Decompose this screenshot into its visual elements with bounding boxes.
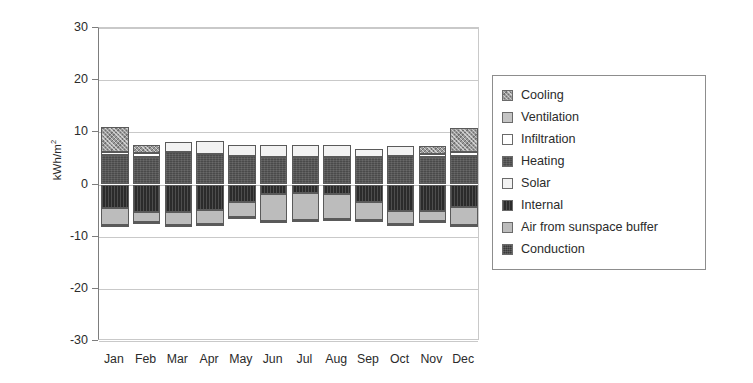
- bar-segment: [196, 154, 223, 184]
- x-tick-label: May: [229, 352, 252, 366]
- bar-segment: [260, 185, 287, 195]
- bar-segment: [292, 145, 319, 157]
- chart-legend: CoolingVentilationInfiltrationHeatingSol…: [492, 75, 706, 270]
- bar-segment: [165, 212, 192, 225]
- bar-segment: [292, 220, 319, 222]
- bar-segment: [101, 155, 128, 184]
- bar-group: [450, 28, 477, 339]
- bar-segment: [101, 185, 128, 208]
- legend-item-label: Conduction: [521, 243, 585, 256]
- bar-group: [228, 28, 255, 339]
- legend-swatch-icon: [502, 244, 513, 255]
- bar-segment: [323, 194, 350, 220]
- bar-segment: [133, 212, 160, 221]
- y-axis-title-superscript: 2: [49, 140, 58, 144]
- legend-item-label: Cooling: [521, 89, 564, 102]
- legend-item-label: Ventilation: [521, 111, 579, 124]
- bar-segment: [133, 157, 160, 185]
- bar-segment: [450, 128, 477, 152]
- legend-item: Infiltration: [502, 128, 696, 150]
- y-axis-title-text: kWh/m: [51, 144, 63, 180]
- bar-group: [196, 28, 223, 339]
- bar-segment: [196, 141, 223, 154]
- bar-group: [292, 28, 319, 339]
- legend-item: Solar: [502, 172, 696, 194]
- x-tick-label: Oct: [390, 352, 409, 366]
- bar-group: [355, 28, 382, 339]
- bar-group: [419, 28, 446, 339]
- bar-segment: [419, 146, 446, 154]
- bar-segment: [133, 153, 160, 157]
- plot-area: [98, 27, 479, 340]
- legend-swatch-icon: [502, 200, 513, 211]
- bar-segment: [133, 222, 160, 224]
- legend-item-label: Internal: [521, 199, 563, 212]
- bar-segment: [450, 152, 477, 156]
- y-tick-label: 30: [48, 20, 88, 34]
- y-tick-label: 10: [48, 124, 88, 138]
- x-tick-label: Jun: [263, 352, 283, 366]
- bar-segment: [355, 220, 382, 222]
- y-tick-label: 20: [48, 72, 88, 86]
- bar-segment: [323, 219, 350, 221]
- bar-segment: [260, 145, 287, 157]
- x-tick-label: Nov: [420, 352, 442, 366]
- bar-segment: [355, 149, 382, 158]
- x-tick-label: Mar: [167, 352, 188, 366]
- chart-figure: kWh/m2 3020100-10-20-30 JanFebMarAprMayJ…: [0, 0, 753, 383]
- bar-segment: [419, 185, 446, 212]
- bar-segment: [450, 185, 477, 208]
- legend-swatch-icon: [502, 90, 513, 101]
- bar-group: [323, 28, 350, 339]
- bar-segment: [196, 210, 223, 224]
- bar-segment: [355, 157, 382, 184]
- bar-segment: [450, 207, 477, 225]
- bar-group: [387, 28, 414, 339]
- legend-swatch-icon: [502, 178, 513, 189]
- legend-item-label: Air from sunspace buffer: [521, 221, 658, 234]
- y-tick-mark: [92, 340, 98, 341]
- bar-segment: [260, 157, 287, 184]
- x-tick-label: Jan: [104, 352, 124, 366]
- bar-segment: [292, 193, 319, 220]
- x-tick-label: Feb: [135, 352, 156, 366]
- bar-segment: [101, 208, 128, 225]
- bar-segment: [323, 185, 350, 194]
- legend-item: Conduction: [502, 238, 696, 260]
- y-tick-label: -10: [48, 229, 88, 243]
- bar-group: [165, 28, 192, 339]
- bar-segment: [450, 156, 477, 185]
- bar-segment: [228, 202, 255, 218]
- bar-segment: [101, 127, 128, 153]
- bar-segment: [228, 185, 255, 202]
- bar-segment: [101, 152, 128, 155]
- legend-swatch-icon: [502, 222, 513, 233]
- bar-segment: [133, 185, 160, 213]
- x-tick-label: Apr: [200, 352, 219, 366]
- legend-item: Internal: [502, 194, 696, 216]
- bar-segment: [387, 185, 414, 211]
- bar-segment: [260, 194, 287, 221]
- bar-segment: [292, 157, 319, 184]
- bar-segment: [419, 211, 446, 221]
- bar-segment: [387, 146, 414, 156]
- bar-group: [101, 28, 128, 339]
- x-tick-label: Sep: [357, 352, 379, 366]
- bar-segment: [355, 185, 382, 203]
- bar-segment: [450, 225, 477, 227]
- legend-swatch-icon: [502, 134, 513, 145]
- bar-segment: [228, 217, 255, 219]
- bar-segment: [387, 211, 414, 225]
- bar-segment: [387, 156, 414, 184]
- gridline--30: [99, 341, 478, 342]
- x-tick-label: Jul: [297, 352, 313, 366]
- bar-segment: [165, 152, 192, 185]
- bar-segment: [228, 145, 255, 156]
- legend-item-label: Infiltration: [521, 133, 576, 146]
- legend-item: Cooling: [502, 84, 696, 106]
- bar-segment: [228, 156, 255, 184]
- legend-item-label: Solar: [521, 177, 550, 190]
- legend-item: Ventilation: [502, 106, 696, 128]
- bar-segment: [387, 224, 414, 226]
- bar-segment: [165, 225, 192, 227]
